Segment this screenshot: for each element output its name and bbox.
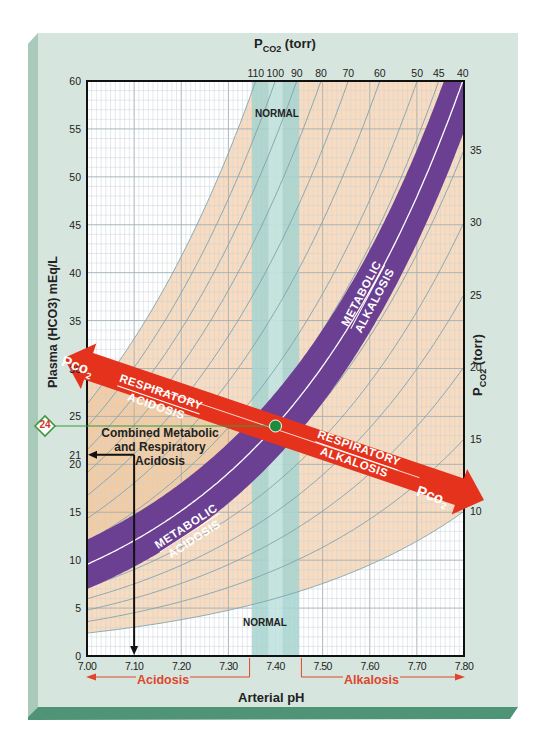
alkalosis-legend: Alkalosis bbox=[343, 673, 400, 687]
x-tick-7.00: 7.00 bbox=[78, 660, 97, 672]
x-tick-7.70: 7.70 bbox=[408, 660, 427, 672]
right-tick-30: 30 bbox=[470, 216, 482, 228]
top-tick-80: 80 bbox=[315, 67, 327, 79]
y-tick-55: 55 bbox=[69, 123, 81, 135]
x-tick-7.30: 7.30 bbox=[219, 660, 238, 672]
y-tick-45: 45 bbox=[69, 219, 81, 231]
normal-label-bottom: NORMAL bbox=[243, 617, 287, 628]
top-tick-45: 45 bbox=[433, 67, 445, 79]
left-axis-title: Plasma (HCO3) mEq/L bbox=[46, 256, 60, 388]
top-tick-60: 60 bbox=[374, 67, 386, 79]
top-tick-90: 90 bbox=[291, 67, 303, 79]
y-tick-35: 35 bbox=[69, 315, 81, 327]
x-axis-title: Arterial pH bbox=[238, 690, 304, 705]
right-tick-15: 15 bbox=[470, 433, 482, 445]
right-tick-25: 25 bbox=[470, 289, 482, 301]
y-tick-15: 15 bbox=[69, 506, 81, 518]
frame-left-edge bbox=[28, 33, 38, 717]
y-tick-50: 50 bbox=[69, 171, 81, 183]
x-tick-7.40: 7.40 bbox=[266, 660, 285, 672]
normal-hco3-diamond-value[interactable]: 24 bbox=[37, 419, 53, 430]
y-tick-10: 10 bbox=[69, 554, 81, 566]
top-axis-title: PCO2 (torr) bbox=[254, 36, 316, 54]
y-tick-21: 21 bbox=[69, 449, 81, 461]
frame-bottom-bevel bbox=[28, 707, 518, 720]
y-tick-25: 25 bbox=[69, 410, 81, 422]
normal-label-top: NORMAL bbox=[255, 108, 299, 119]
top-tick-50: 50 bbox=[411, 67, 423, 79]
right-axis-title: PCO2 (torr) bbox=[470, 334, 488, 396]
x-tick-7.80: 7.80 bbox=[455, 660, 474, 672]
plot-area bbox=[87, 0, 464, 656]
y-tick-40: 40 bbox=[69, 267, 81, 279]
top-tick-70: 70 bbox=[342, 67, 354, 79]
top-tick-100: 100 bbox=[267, 67, 285, 79]
normal-point[interactable] bbox=[270, 420, 282, 432]
top-tick-40: 40 bbox=[457, 67, 469, 79]
acid-base-nomogram: 051015202125303540455055607.007.107.207.… bbox=[0, 0, 544, 754]
combined-acidosis-label: Combined Metabolic and Respiratory Acido… bbox=[100, 426, 220, 468]
right-tick-35: 35 bbox=[470, 144, 482, 156]
y-tick-5: 5 bbox=[75, 602, 81, 614]
x-tick-7.50: 7.50 bbox=[313, 660, 332, 672]
right-tick-10: 10 bbox=[470, 505, 482, 517]
acidosis-legend: Acidosis bbox=[136, 673, 190, 687]
x-tick-7.60: 7.60 bbox=[361, 660, 380, 672]
y-tick-60: 60 bbox=[69, 75, 81, 87]
x-tick-7.10: 7.10 bbox=[125, 660, 144, 672]
top-tick-110: 110 bbox=[247, 67, 264, 79]
x-tick-7.20: 7.20 bbox=[172, 660, 191, 672]
